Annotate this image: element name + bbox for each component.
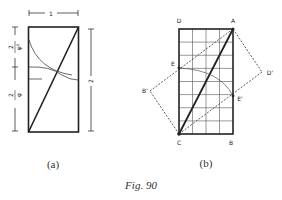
- point-a: [232, 28, 235, 31]
- panel-b-label: (b): [200, 157, 213, 170]
- label-e: E: [171, 60, 175, 67]
- left-upper-fraction-denominator: φ²: [15, 43, 23, 50]
- panel-a: 1 2 2 φ² 2 φ (a): [7, 10, 94, 171]
- left-lower-fraction-numerator: 2: [7, 93, 14, 97]
- right-dimension-label: 2: [87, 79, 94, 83]
- label-a: A: [231, 17, 236, 24]
- label-c: C: [177, 139, 181, 146]
- left-lower-fraction: 2 φ: [7, 90, 23, 100]
- point-e-prime: [232, 95, 235, 98]
- point-c: [177, 132, 181, 136]
- figure-caption: Fig. 90: [124, 179, 157, 191]
- label-b-prime: B': [142, 87, 148, 94]
- label-b: B: [229, 139, 233, 146]
- point-e: [178, 67, 181, 70]
- top-dimension-label: 1: [49, 10, 53, 17]
- panel-b: D A C B E E' B' D' (b): [142, 17, 273, 170]
- left-upper-fraction-numerator: 2: [7, 45, 14, 49]
- arc-a: [29, 40, 72, 75]
- label-e-prime: E': [237, 95, 243, 102]
- panel-a-label: (a): [47, 158, 60, 171]
- label-d-prime: D': [267, 69, 274, 76]
- left-lower-fraction-denominator: φ: [15, 93, 23, 97]
- left-upper-fraction: 2 φ²: [7, 41, 23, 53]
- figure-90: 1 2 2 φ² 2 φ (a): [0, 0, 282, 200]
- diagonal-a: [29, 27, 79, 132]
- label-d: D: [177, 17, 182, 24]
